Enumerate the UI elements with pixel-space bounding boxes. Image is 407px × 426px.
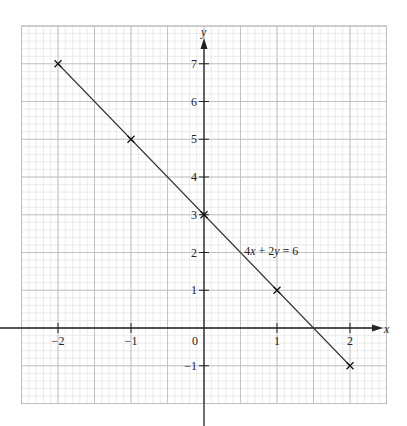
y-tick-label: 1	[191, 283, 197, 297]
y-axis-label: y	[200, 25, 207, 39]
y-axis-arrow-icon	[201, 38, 208, 49]
line-graph: −2−112−11234567 x y 0 4x + 2y = 6	[0, 0, 407, 426]
x-axis-label: x	[383, 322, 390, 336]
y-tick-label: 4	[191, 170, 197, 184]
x-tick-label: 2	[347, 334, 353, 348]
y-tick-label: 7	[191, 57, 197, 71]
y-tick-label: −1	[184, 359, 197, 373]
x-tick-label: 1	[274, 334, 280, 348]
y-tick-label: 5	[191, 132, 197, 146]
origin-label: 0	[192, 334, 198, 348]
eq-rhs: = 6	[280, 244, 299, 258]
equation-label: 4x + 2y = 6	[244, 244, 298, 258]
x-tick-label: −1	[125, 334, 138, 348]
y-tick-label: 3	[191, 208, 197, 222]
x-tick-label: −2	[52, 334, 65, 348]
x-axis-arrow-icon	[372, 325, 383, 332]
y-tick-label: 6	[191, 95, 197, 109]
y-tick-label: 2	[191, 246, 197, 260]
eq-mid: + 2	[255, 244, 274, 258]
